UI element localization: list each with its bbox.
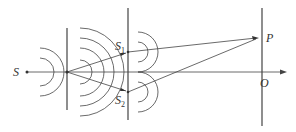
ray-s2-to-p [128,39,256,92]
ray-s1-to-p [128,38,256,52]
label-source: S [13,66,19,78]
ray-to-s1 [67,53,126,72]
source-point [26,71,29,74]
ray-to-s2 [67,72,126,91]
label-p: P [266,32,273,44]
arrowhead-icon [120,88,126,91]
label-s2-sub: 2 [121,100,125,109]
double-slit-diagram: S S1 S2 P O [0,0,296,132]
axis-arrow-icon [280,70,287,75]
label-s2: S2 [115,94,125,109]
s2-point [127,91,130,94]
slit-point [65,70,68,73]
diagram-canvas [0,0,296,132]
label-s1-sub: 1 [121,46,125,55]
label-o: O [260,77,269,89]
wavefront [138,42,148,62]
label-s1: S1 [115,40,125,55]
s1-point [127,51,130,54]
wavefront [138,82,148,102]
